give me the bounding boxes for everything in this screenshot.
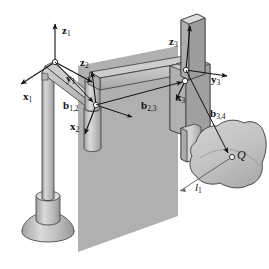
axis-label-z1: z1	[62, 25, 71, 36]
point-label-q: Q	[237, 149, 246, 161]
axis-label-x2: x2	[70, 121, 79, 132]
axis-label-y1: y1	[66, 73, 75, 84]
axis-label-x1: x1	[23, 91, 32, 102]
axis-label-y2: y2	[115, 110, 124, 120]
vector-label-b12: b1,2	[63, 100, 79, 111]
line-label-l1: l1	[195, 182, 202, 193]
vector-label-b23: b2,3	[141, 100, 157, 111]
axis-label-y3: y3	[211, 74, 220, 85]
axis-label-x3: x3	[176, 92, 185, 103]
diagram-canvas	[0, 0, 269, 269]
vector-label-b34: b3,4	[210, 108, 226, 119]
vertical-column-link-1	[42, 72, 54, 201]
axis-label-z2: z2	[80, 57, 89, 68]
kinematics-figure: z1 y1 x1 z2 y2 x2 z3 y3 x3 b1,2 b2,3 b3,…	[0, 0, 269, 269]
axis-label-z3: z3	[169, 36, 178, 47]
point-q-marker	[229, 154, 234, 159]
